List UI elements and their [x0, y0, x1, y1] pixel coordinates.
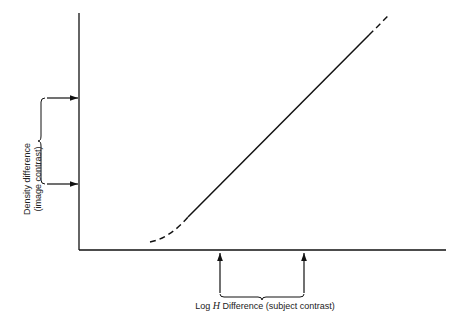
- x-label-prefix: Log: [195, 301, 213, 311]
- diagram-canvas: [0, 0, 456, 321]
- x-label-var: H: [213, 300, 220, 311]
- x-axis-label: Log H Difference (subject contrast): [150, 300, 380, 311]
- curve-toe: [150, 217, 188, 242]
- curve-linear: [188, 35, 369, 217]
- x-label-suffix: Difference (subject contrast): [220, 301, 335, 311]
- y-axis-label-line1: Density difference: [22, 124, 33, 234]
- curve-shoulder: [369, 14, 390, 35]
- y-axis-label-line2: (image contrast): [33, 124, 44, 234]
- y-axis-label: Density difference (image contrast): [22, 124, 44, 234]
